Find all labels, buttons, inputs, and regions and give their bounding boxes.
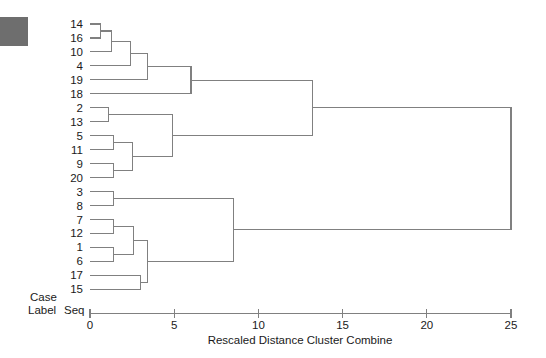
leaf-label-16: 16 <box>70 32 83 44</box>
dendrogram-link-m2 <box>90 31 112 52</box>
leaf-label-15: 15 <box>70 283 83 295</box>
leaf-label-4: 4 <box>77 60 84 72</box>
dendrogram-link-m4 <box>90 54 147 80</box>
leaf-label-1: 1 <box>77 241 83 253</box>
dendrogram-link-m12 <box>90 191 114 205</box>
dendrogram-link-m1 <box>90 24 100 38</box>
x-axis-title: Rescaled Distance Cluster Combine <box>208 334 393 346</box>
case-label-line2: Label <box>28 304 56 316</box>
dendrogram-link-m18 <box>114 198 234 261</box>
leaf-label-3: 3 <box>77 186 83 198</box>
case-label-line1: Case <box>30 291 57 303</box>
x-axis-tick-label-10: 10 <box>252 319 265 331</box>
x-axis-tick-label-20: 20 <box>420 319 433 331</box>
leaf-label-7: 7 <box>77 214 83 226</box>
leaf-label-14: 14 <box>70 18 83 30</box>
dendrogram-link-m7 <box>90 136 114 150</box>
x-axis-tick-label-0: 0 <box>87 319 93 331</box>
leaf-label-8: 8 <box>77 200 83 212</box>
dendrogram-link-m13 <box>90 219 114 233</box>
leaf-label-19: 19 <box>70 74 83 86</box>
leaf-label-12: 12 <box>70 227 83 239</box>
leaf-label-9: 9 <box>77 158 83 170</box>
leaf-label-11: 11 <box>71 144 83 156</box>
leaf-label-10: 10 <box>70 46 83 58</box>
x-axis: 0510152025 <box>87 309 518 331</box>
seq-label: Seq <box>64 304 84 316</box>
dendrogram-link-m16 <box>90 275 141 289</box>
dendrogram-link-m19 <box>233 108 511 230</box>
dendrogram-plot: 1416104191821351192038712161715 05101520… <box>0 0 546 358</box>
dendrogram-link-m15 <box>114 226 134 254</box>
leaf-label-2: 2 <box>77 102 83 114</box>
dendrogram-figure: 1416104191821351192038712161715 05101520… <box>0 0 546 358</box>
leaf-label-13: 13 <box>70 116 83 128</box>
dendrogram-links <box>90 24 511 289</box>
leaf-label-18: 18 <box>70 88 83 100</box>
x-axis-tick-label-25: 25 <box>505 319 518 331</box>
leaf-label-20: 20 <box>70 172 83 184</box>
leaf-label-5: 5 <box>77 130 83 142</box>
leaf-label-column: 1416104191821351192038712161715 <box>70 18 83 295</box>
leaf-label-6: 6 <box>77 255 83 267</box>
dendrogram-link-m11 <box>173 80 313 135</box>
leaf-label-17: 17 <box>70 269 83 281</box>
x-axis-tick-label-15: 15 <box>336 319 349 331</box>
dendrogram-link-m10 <box>109 115 173 157</box>
dendrogram-link-m9 <box>114 143 133 171</box>
dendrogram-link-m6 <box>90 108 109 122</box>
dendrogram-link-m8 <box>90 164 114 178</box>
dendrogram-link-m14 <box>90 247 114 261</box>
dendrogram-link-m3 <box>90 41 130 65</box>
x-axis-tick-label-5: 5 <box>171 319 177 331</box>
